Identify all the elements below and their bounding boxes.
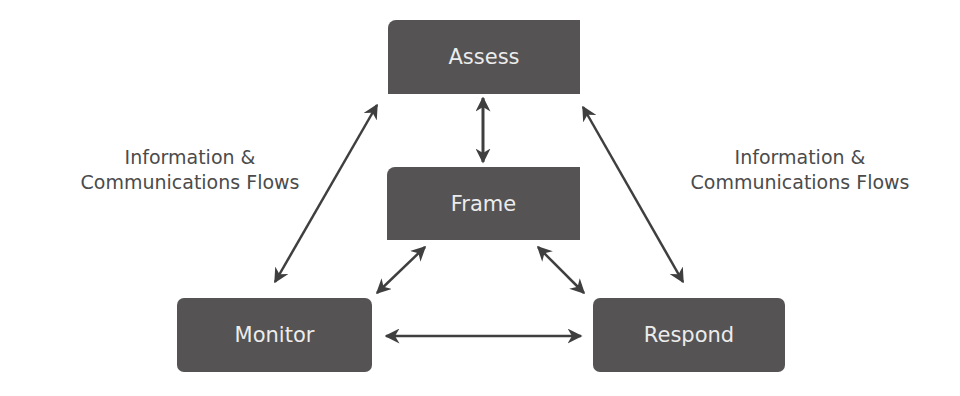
node-monitor: Monitor: [177, 298, 372, 372]
flow-label-left: Information & Communications Flows: [40, 145, 340, 195]
node-frame-label: Frame: [451, 192, 516, 216]
node-frame: Frame: [387, 167, 580, 240]
node-respond: Respond: [593, 298, 785, 372]
node-monitor-label: Monitor: [235, 323, 315, 347]
arrow-frame-monitor: [377, 247, 425, 293]
flow-label-right: Information & Communications Flows: [645, 145, 955, 195]
node-respond-label: Respond: [644, 323, 734, 347]
flow-label-right-line1: Information &: [645, 145, 955, 170]
node-assess-label: Assess: [448, 45, 519, 69]
flow-label-left-line1: Information &: [40, 145, 340, 170]
flow-label-left-line2: Communications Flows: [40, 170, 340, 195]
node-assess: Assess: [388, 20, 580, 94]
flow-label-right-line2: Communications Flows: [645, 170, 955, 195]
arrow-frame-respond: [538, 247, 584, 293]
